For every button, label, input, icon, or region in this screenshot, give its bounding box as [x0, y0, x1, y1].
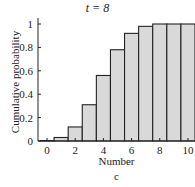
y-tick-label: 0.4: [19, 88, 33, 100]
bar: [82, 105, 96, 141]
bar: [153, 24, 167, 141]
y-tick-label: 0.6: [19, 65, 33, 77]
bar: [96, 75, 110, 141]
y-tick-label: 0.8: [19, 41, 33, 53]
y-tick-label: 1: [28, 18, 34, 30]
figure-caption: c: [38, 170, 195, 182]
bar: [139, 26, 153, 141]
bar: [54, 137, 68, 141]
x-axis-label: Number: [38, 155, 195, 167]
bar: [181, 24, 195, 141]
y-tick-label: 0.2: [19, 112, 33, 124]
bar: [125, 33, 139, 141]
bar: [110, 50, 124, 141]
bar: [167, 24, 181, 141]
y-tick-label: 0: [28, 135, 34, 147]
